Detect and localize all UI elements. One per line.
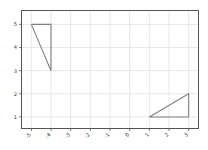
chart-figure: -5-4-3-2-10123 12345	[0, 0, 208, 150]
y-tick-label: 3	[14, 68, 17, 74]
y-tick-label: 1	[14, 114, 17, 120]
y-tick-label: 2	[14, 91, 17, 97]
y-tick-label: 5	[14, 21, 17, 27]
plot-canvas: -5-4-3-2-10123 12345	[0, 0, 208, 150]
